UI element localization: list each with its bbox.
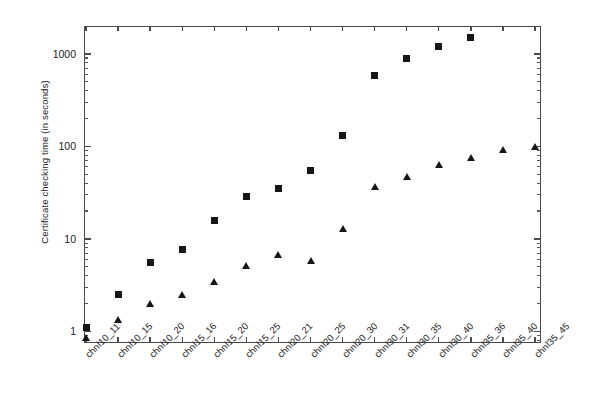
chart-figure: Certificate checking time (in seconds) 1… xyxy=(0,0,606,403)
y-axis-title: Certificate checking time (in seconds) xyxy=(34,2,56,322)
y-tick-label: 1 xyxy=(32,326,76,337)
plot-frame xyxy=(84,26,541,343)
